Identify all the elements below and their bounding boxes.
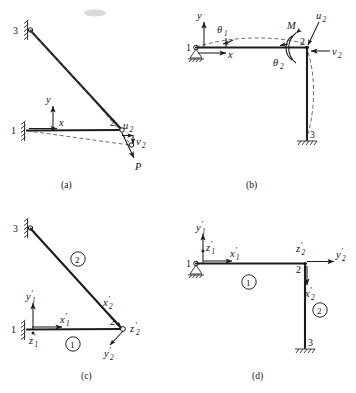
axis-x-label-a: x [58, 117, 64, 128]
support-node1-wall-a [21, 121, 26, 141]
axis-x2p-label-c: x [102, 297, 108, 308]
axis-z2p-prime-d: ′ [301, 241, 303, 250]
node-3-label-a: 3 [13, 25, 18, 36]
axis-z2p-prime-c: ′ [136, 321, 138, 330]
axis-y-label-a: y [45, 94, 51, 105]
axis-z1p-prime-d: ′ [211, 240, 213, 249]
axis-x1p-prime-d: ′ [236, 246, 238, 255]
axis-z1p-label-d: z [205, 242, 210, 253]
v2-label-b: v [332, 46, 337, 57]
node-2-marker-b [305, 46, 309, 50]
axis-x-label-b: x [227, 49, 233, 60]
node-3-label-d: 3 [308, 337, 313, 348]
engineering-figure: 3 1 2 y x u 2 v 2 [0, 0, 356, 393]
caption-a: (a) [61, 180, 72, 191]
node-3-label-c: 3 [13, 223, 18, 234]
v2-label-a: v [136, 136, 141, 147]
theta1-label-b: θ [217, 24, 222, 35]
v2-subscript-a: 2 [142, 142, 146, 150]
axis-z2p-label-d: z [295, 243, 300, 254]
load-P-label-a: P [134, 161, 142, 172]
node-2-label-d: 2 [296, 264, 301, 275]
caption-d: (d) [252, 371, 263, 382]
axis-y1p-label-c: y [25, 291, 31, 302]
member-1-a [27, 130, 122, 131]
caption-b: (b) [246, 180, 257, 191]
theta2-label-b: θ [273, 57, 278, 68]
panel-b: 1 3 y x θ 1 θ 2 M [186, 10, 342, 191]
figure-container: 3 1 2 y x u 2 v 2 [0, 0, 356, 393]
element-1-number-c: 1 [70, 340, 75, 350]
support-node3-ground-b [297, 141, 317, 145]
panel-d: 1 3 2 1 2 y 1 ′ z 1 ′ x 1 ′ [186, 220, 346, 382]
axis-y1p-prime-c: ′ [32, 289, 34, 298]
axis-y2p-arrow-c [110, 331, 123, 345]
axis-x2p-prime-c: ′ [109, 295, 111, 304]
axis-z1p-marker-d [202, 250, 205, 253]
axis-x2p-label-d: x [304, 288, 310, 299]
element-2-number-c: 2 [75, 255, 80, 265]
node-3-label-b: 3 [310, 129, 315, 140]
node-2-label-b: 2 [300, 36, 305, 47]
axis-y1p-prime-d: ′ [202, 220, 204, 229]
panel-a: 3 1 2 y x u 2 v 2 [11, 20, 146, 191]
deformed-member-1-a [27, 131, 131, 145]
node-1-label-d: 1 [186, 258, 191, 269]
theta2-subscript-b: 2 [280, 63, 284, 71]
theta1-subscript-b: 1 [224, 30, 228, 38]
axis-y2p-label-c: y [103, 348, 109, 359]
node-2-marker-c [121, 327, 126, 332]
axis-z2p-marker-d [303, 262, 306, 265]
node-1-label-b: 1 [186, 42, 191, 53]
u2-label-b: u [316, 10, 321, 21]
support-node1-wall-c [21, 320, 26, 340]
scan-smudge [84, 10, 106, 17]
node-1-label-c: 1 [11, 324, 16, 335]
caption-c: (c) [81, 371, 92, 382]
u2-arrow-b [308, 22, 319, 45]
axis-x1p-prime-c: ′ [66, 312, 68, 321]
axis-y1p-label-d: y [195, 222, 201, 233]
axis-y-label-b: y [196, 10, 202, 21]
u2-subscript-a: 2 [130, 126, 134, 134]
moment-M-label-b: M [286, 20, 297, 31]
node-1-label-a: 1 [11, 125, 16, 136]
support-node3-ground-d [295, 349, 315, 353]
u2-label-a: u [123, 120, 128, 131]
axis-y2p-prime-c: ′ [110, 346, 112, 355]
member-1-c [27, 329, 122, 330]
axis-x1p-label-d: x [229, 248, 235, 259]
u2-subscript-b: 2 [323, 16, 327, 24]
panel-c: 3 1 2 1 2 y 1 ′ x 1 ′ z 1 ′ [11, 218, 140, 382]
element-1-number-d: 1 [246, 278, 251, 288]
axis-z1p-label-c: z [28, 335, 33, 346]
v2-subscript-b: 2 [338, 52, 342, 60]
axis-z1p-prime-c: ′ [34, 333, 36, 342]
axis-y2p-label-d: y [335, 249, 341, 260]
axis-y2p-prime-d: ′ [342, 247, 344, 256]
axis-x2p-prime-d: ′ [311, 286, 313, 295]
axis-z2p-label-c: z [129, 323, 134, 334]
element-2-number-d: 2 [317, 306, 322, 316]
axis-x1p-label-c: x [59, 314, 65, 325]
